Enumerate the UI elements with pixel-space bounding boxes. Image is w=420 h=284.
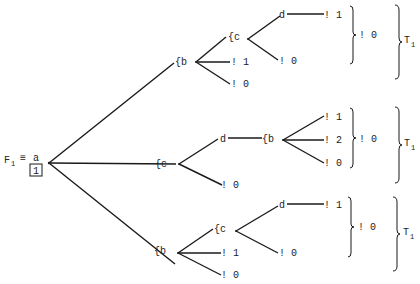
tree-label: T — [403, 227, 409, 238]
inner-result: ! 0 — [358, 222, 376, 233]
leaf: ! 0 — [279, 248, 297, 259]
node-b: {b — [175, 57, 187, 68]
node-d: d — [279, 10, 285, 21]
node-b: {b — [154, 246, 166, 257]
decision-tree-diagram: F 1 ≡ a 1 {b {c ! 1 ! 0 d ! 1 ! 0 ! 0 T … — [0, 0, 420, 284]
boxed-value-text: 1 — [33, 166, 39, 177]
node-b: {b — [262, 134, 274, 145]
tree-subscript: 1 — [411, 41, 415, 49]
leaf: ! 0 — [221, 180, 239, 191]
subtree-1: {b {c ! 1 ! 0 d ! 1 ! 0 ! 0 T 1 — [175, 5, 415, 90]
node-c: {c — [155, 159, 167, 170]
tree-subscript: 1 — [411, 144, 415, 152]
brace — [350, 108, 356, 168]
brace — [348, 197, 354, 257]
brace — [395, 107, 402, 183]
root-label: F — [4, 155, 10, 166]
brace — [395, 5, 402, 79]
brace — [350, 6, 356, 64]
tree-label: T — [404, 35, 410, 46]
inner-result: ! 0 — [359, 134, 377, 145]
root-subscript: 1 — [11, 160, 15, 168]
leaf: ! 0 — [231, 79, 249, 90]
tree-label: T — [404, 138, 410, 149]
leaf: ! 0 — [324, 158, 342, 169]
leaf: ! 1 — [324, 200, 342, 211]
subtree-2: {c d {b ! 1 ! 2 ! 0 ! 0 ! 0 T 1 — [155, 107, 415, 191]
leaf: ! 2 — [324, 135, 342, 146]
leaf: ! 1 — [324, 112, 342, 123]
brace — [393, 197, 400, 271]
leaf: ! 1 — [231, 57, 249, 68]
leaf: ! 0 — [279, 56, 297, 67]
subtree-3: {b {c ! 1 ! 0 d ! 1 ! 0 ! 0 T 1 — [154, 197, 414, 281]
equiv-symbol: ≡ — [20, 153, 26, 164]
root-node-a: a — [33, 153, 39, 164]
node-c: {c — [214, 224, 226, 235]
leaf: ! 1 — [324, 10, 342, 21]
leaf: ! 0 — [221, 270, 239, 281]
tree-subscript: 1 — [410, 233, 414, 241]
node-d: d — [220, 134, 226, 145]
node-c: {c — [228, 32, 240, 43]
root-node: F 1 ≡ a 1 — [4, 153, 50, 177]
leaf: ! 1 — [221, 248, 239, 259]
node-d: d — [279, 200, 285, 211]
inner-result: ! 0 — [359, 30, 377, 41]
